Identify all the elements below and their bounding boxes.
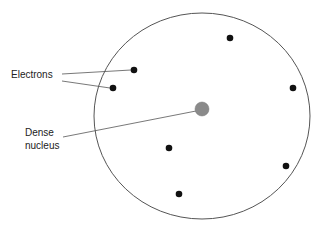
dense-nucleus bbox=[195, 102, 209, 116]
nucleus-label-line1: Dense bbox=[25, 127, 54, 139]
diagram-canvas bbox=[0, 0, 318, 229]
electron bbox=[290, 85, 297, 92]
nucleus-pointer-line bbox=[63, 111, 196, 137]
electron-pointer-line-2 bbox=[62, 81, 110, 88]
electron bbox=[283, 163, 290, 170]
electron bbox=[110, 85, 117, 92]
electron bbox=[131, 67, 138, 74]
electron bbox=[166, 145, 173, 152]
atom-model-diagram: Electrons Dense nucleus bbox=[0, 0, 318, 229]
electrons-label: Electrons bbox=[11, 69, 53, 81]
electron-pointer-line-1 bbox=[62, 70, 131, 74]
nucleus-label-line2: nucleus bbox=[25, 140, 59, 152]
electron bbox=[176, 191, 183, 198]
electron bbox=[227, 35, 234, 42]
